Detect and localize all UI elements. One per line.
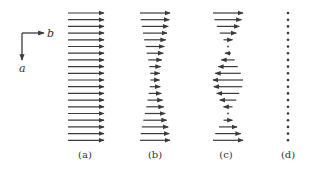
zero-moment-dot-icon — [287, 85, 290, 88]
zero-moment-dot-icon — [287, 25, 290, 28]
panel-c-label: (c) — [219, 149, 233, 160]
small-moment-dot-icon — [227, 113, 229, 115]
zero-moment-dot-icon — [287, 112, 290, 115]
a-axis-label: a — [19, 62, 26, 75]
panel-d-label: (d) — [281, 149, 295, 160]
zero-moment-dot-icon — [287, 92, 290, 95]
zero-moment-dot-icon — [287, 106, 290, 109]
zero-moment-dot-icon — [287, 132, 290, 135]
zero-moment-dot-icon — [287, 32, 290, 35]
zero-moment-dot-icon — [287, 126, 290, 129]
zero-moment-dot-icon — [287, 59, 290, 62]
panel-b-vectors — [140, 13, 170, 140]
zero-moment-dot-icon — [287, 79, 290, 82]
zero-moment-dot-icon — [287, 99, 290, 102]
zero-moment-dot-icon — [287, 45, 290, 48]
panel-b: (b) — [140, 13, 170, 160]
axes-indicator: b a — [19, 27, 54, 75]
zero-moment-dot-icon — [287, 18, 290, 21]
zero-moment-dot-icon — [287, 119, 290, 122]
zero-moment-dot-icon — [287, 12, 290, 15]
panel-b-label: (b) — [148, 149, 162, 160]
zero-moment-dot-icon — [287, 139, 290, 142]
zero-moment-dot-icon — [287, 52, 290, 55]
panel-d-vectors — [287, 12, 290, 142]
panel-c: (c) — [213, 13, 243, 160]
panel-d: (d) — [281, 12, 295, 160]
spin-arrangement-diagram: b a (a) (b) (c) (d) — [0, 0, 317, 172]
panel-a-label: (a) — [78, 149, 92, 160]
panel-c-vectors — [213, 13, 243, 140]
panel-a: (a) — [68, 13, 104, 160]
zero-moment-dot-icon — [287, 65, 290, 68]
zero-moment-dot-icon — [287, 72, 290, 75]
panel-a-vectors — [68, 13, 104, 140]
zero-moment-dot-icon — [287, 39, 290, 42]
small-moment-dot-icon — [227, 46, 229, 48]
b-axis-label: b — [47, 27, 54, 40]
